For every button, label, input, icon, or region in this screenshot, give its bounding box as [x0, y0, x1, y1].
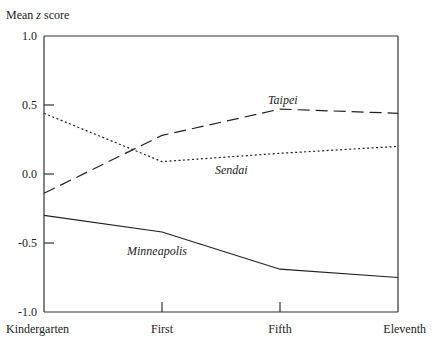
y-tick-label: 0.0: [22, 167, 37, 181]
y-axis-labels: 1.0 0.5 0.0 -0.5 -1.0: [18, 29, 37, 319]
x-axis-ticks: [162, 302, 280, 312]
line-chart: Mean z score 1.0 0.5 0.0 -0.5 -1.0 Kinde…: [0, 0, 432, 350]
y-axis-title: Mean z score: [6, 8, 69, 22]
y-tick-label: -0.5: [18, 236, 37, 250]
x-tick-label: Eleventh: [383, 322, 426, 336]
series-label-taipei: Taipei: [268, 93, 298, 107]
x-tick-label: Kindergarten: [6, 322, 69, 336]
series-line-minneapolis: [44, 215, 398, 277]
series-line-sendai: [44, 113, 398, 161]
y-tick-label: 1.0: [22, 29, 37, 43]
y-tick-label: -1.0: [18, 305, 37, 319]
series-label-sendai: Sendai: [215, 163, 248, 177]
x-tick-label: Fifth: [268, 322, 291, 336]
x-tick-label: First: [151, 322, 174, 336]
y-axis-ticks: [44, 105, 54, 243]
series-label-minneapolis: Minneapolis: [126, 244, 187, 258]
series-line-taipei: [44, 109, 398, 193]
y-tick-label: 0.5: [22, 98, 37, 112]
x-axis-labels: Kindergarten First Fifth Eleventh: [6, 322, 426, 336]
